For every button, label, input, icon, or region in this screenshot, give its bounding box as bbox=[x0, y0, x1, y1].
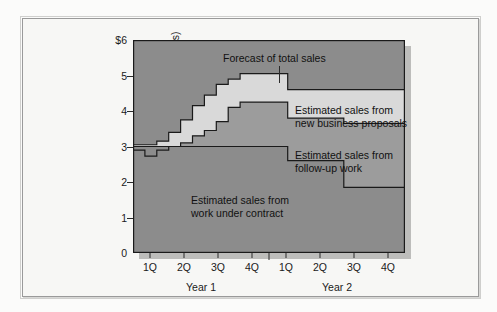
x-tick-label-0: 1Q bbox=[143, 261, 157, 273]
annotation-follow-up-line1: Estimated sales from bbox=[295, 149, 393, 162]
annotation-work-under-contract: Estimated sales from work under contract bbox=[191, 194, 289, 220]
annotation-new-business-proposals: Estimated sales from new business propos… bbox=[295, 104, 407, 130]
annotation-contract-line1: Estimated sales from bbox=[191, 194, 289, 207]
annotation-follow-up-work: Estimated sales from follow-up work bbox=[295, 149, 393, 175]
x-tick-mark bbox=[388, 253, 389, 258]
x-tick-mark bbox=[354, 253, 355, 258]
x-tick-mark bbox=[150, 253, 151, 258]
x-tick-label-5: 2Q bbox=[313, 261, 327, 273]
x-tick-mark bbox=[320, 253, 321, 258]
x-tick-mark bbox=[218, 253, 219, 258]
year-divider-mark bbox=[269, 253, 270, 260]
x-tick-mark bbox=[286, 253, 287, 258]
annotation-leader-line bbox=[279, 66, 280, 83]
annotation-new-business-line2: new business proposals bbox=[295, 117, 407, 130]
x-group-label-year-1: Year 1 bbox=[186, 281, 216, 293]
annotation-follow-up-line2: follow-up work bbox=[295, 162, 393, 175]
chart-page: Estimated sales ($millions) $6543210 1Q2… bbox=[0, 0, 497, 312]
x-tick-label-3: 4Q bbox=[245, 261, 259, 273]
x-tick-mark bbox=[184, 253, 185, 258]
annotation-forecast-total-sales: Forecast of total sales bbox=[223, 52, 326, 65]
x-tick-label-1: 2Q bbox=[177, 261, 191, 273]
x-tick-mark bbox=[252, 253, 253, 258]
x-tick-label-7: 4Q bbox=[381, 261, 395, 273]
y-tick-label-$6: $6 bbox=[115, 34, 127, 46]
x-tick-label-2: 3Q bbox=[211, 261, 225, 273]
x-tick-label-6: 3Q bbox=[347, 261, 361, 273]
y-tick-label-0: 0 bbox=[121, 247, 127, 259]
annotation-contract-line2: work under contract bbox=[191, 207, 289, 220]
annotation-new-business-line1: Estimated sales from bbox=[295, 104, 407, 117]
x-group-label-year-2: Year 2 bbox=[322, 281, 352, 293]
x-tick-label-4: 1Q bbox=[279, 261, 293, 273]
stacked-step-area-chart bbox=[133, 40, 405, 253]
plot-area: Estimated sales ($millions) $6543210 1Q2… bbox=[133, 40, 405, 253]
